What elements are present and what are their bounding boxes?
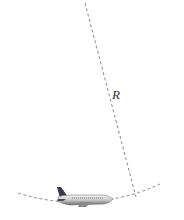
radius-line <box>85 3 136 197</box>
airplane-icon <box>57 187 113 207</box>
radius-label: R <box>112 88 120 101</box>
diagram-canvas <box>0 0 184 220</box>
cutoff-caption-text <box>16 214 184 220</box>
